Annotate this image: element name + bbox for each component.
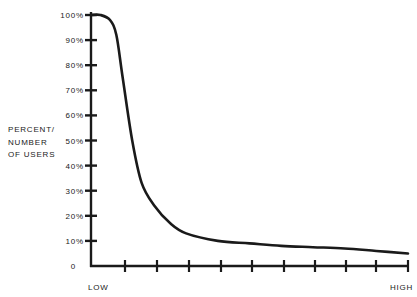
y-tick-label: 90% (66, 36, 84, 45)
data-line-users (91, 15, 408, 254)
x-axis-label-high: HIGH (390, 283, 413, 292)
y-tick-label: 30% (66, 187, 84, 196)
y-tick-label: 40% (66, 162, 84, 171)
x-axis-label-low: LOW (88, 283, 109, 292)
y-tick-label: 80% (66, 61, 84, 70)
y-tick-label: 0 (71, 262, 76, 271)
y-tick-label: 70% (66, 86, 84, 95)
y-tick-label: 50% (66, 137, 84, 146)
y-axis-title-line1: PERCENT/ (8, 125, 55, 134)
y-axis-labels: 010%20%30%40%50%60%70%80%90%100% (60, 11, 84, 271)
y-axis-title-line2: NUMBER (8, 138, 47, 147)
chart: 010%20%30%40%50%60%70%80%90%100% PERCENT… (0, 0, 417, 297)
y-tick-label: 10% (66, 237, 84, 246)
y-tick-label: 20% (66, 212, 84, 221)
y-axis-title-line3: OF USERS (8, 150, 55, 159)
y-tick-label: 100% (60, 11, 84, 20)
y-tick-label: 60% (66, 111, 84, 120)
